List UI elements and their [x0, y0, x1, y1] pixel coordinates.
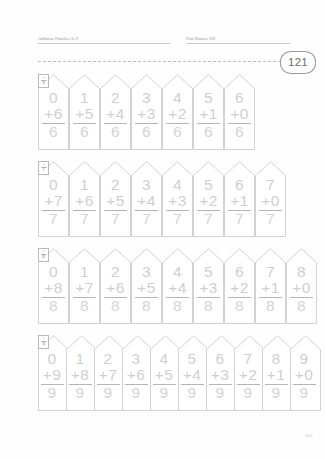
house-row: 0+771+672+573+474+375+276+177+07 [38, 161, 318, 237]
sum-value: 8 [49, 298, 58, 314]
sum-value: 8 [80, 298, 89, 314]
house-problem: 5+49 [178, 335, 206, 401]
top-addend: 7 [266, 264, 275, 280]
fact-house: 5+27 [193, 161, 224, 237]
sum-value: 7 [111, 211, 120, 227]
top-addend: 0 [49, 90, 58, 106]
top-addend: 9 [300, 351, 309, 367]
house-problem: 8+19 [262, 335, 290, 401]
top-addend: 6 [235, 177, 244, 193]
bottom-addend: +5 [75, 106, 93, 122]
bottom-addend: +0 [261, 193, 279, 209]
house-problem: 6+06 [224, 74, 255, 140]
fact-house: 2+57 [100, 161, 131, 237]
bottom-addend: +1 [230, 193, 248, 209]
top-addend: 3 [132, 351, 141, 367]
fact-house: 5+49 [178, 335, 206, 411]
fact-house: 6+28 [224, 248, 255, 324]
house-problem: 6+39 [206, 335, 234, 401]
fact-house-block: +70+771+672+573+474+375+276+177+07 [38, 161, 318, 237]
top-addend: 3 [142, 90, 151, 106]
top-addend: 4 [173, 264, 182, 280]
sum-value: 6 [111, 124, 120, 140]
bottom-addend: +3 [199, 280, 217, 296]
house-problem: 7+18 [255, 248, 286, 314]
bottom-addend: +4 [183, 367, 201, 383]
fact-house: 2+46 [100, 74, 131, 150]
bottom-addend: +7 [44, 193, 62, 209]
fact-house: 9+09 [290, 335, 318, 411]
house-problem: 2+57 [100, 161, 131, 227]
house-problem: 1+56 [69, 74, 100, 140]
house-problem: 8+08 [286, 248, 317, 314]
top-addend: 6 [235, 264, 244, 280]
page-number-label: 121 [288, 57, 308, 69]
tab-number: 7 [41, 167, 47, 173]
bottom-addend: +1 [199, 106, 217, 122]
fact-house: 7+07 [255, 161, 286, 237]
house-problem: 6+28 [224, 248, 255, 314]
bottom-addend: +3 [137, 106, 155, 122]
top-addend: 5 [204, 90, 213, 106]
house-problem: 5+16 [193, 74, 224, 140]
sum-value: 9 [132, 385, 141, 401]
sum-value: 8 [297, 298, 306, 314]
top-addend: 7 [266, 177, 275, 193]
top-addend: 4 [160, 351, 169, 367]
sum-value: 7 [49, 211, 58, 227]
sum-value: 8 [204, 298, 213, 314]
fact-house: 8+19 [262, 335, 290, 411]
house-problem: 3+47 [131, 161, 162, 227]
bottom-addend: +3 [211, 367, 229, 383]
fact-house: 7+18 [255, 248, 286, 324]
sum-value: 6 [235, 124, 244, 140]
top-addend: 2 [111, 264, 120, 280]
top-addend: 3 [142, 177, 151, 193]
house-problem: 7+29 [234, 335, 262, 401]
sum-value: 7 [173, 211, 182, 227]
top-addend: 7 [244, 351, 253, 367]
sum-value: 7 [204, 211, 213, 227]
house-problem: 1+67 [69, 161, 100, 227]
house-problem: 3+69 [122, 335, 150, 401]
bottom-addend: +2 [239, 367, 257, 383]
tab-number: 8 [41, 254, 47, 260]
fact-house-block: +60+661+562+463+364+265+166+06 [38, 74, 318, 150]
worksheet-page: Addition Families 6–9 Fact Houses #02 12… [0, 0, 325, 459]
fact-house: 3+69 [122, 335, 150, 411]
top-addend: 2 [111, 177, 120, 193]
tab-number: 6 [41, 80, 47, 86]
top-addend: 6 [216, 351, 225, 367]
bottom-addend: +0 [230, 106, 248, 122]
tab-number: 9 [41, 341, 47, 347]
sum-value: 8 [173, 298, 182, 314]
page-number-badge: 121 [280, 51, 316, 74]
sum-value: 6 [173, 124, 182, 140]
sum-value: 6 [204, 124, 213, 140]
bottom-addend: +3 [168, 193, 186, 209]
sum-value: 8 [142, 298, 151, 314]
fact-house-blocks: +60+661+562+463+364+265+166+06+70+771+67… [38, 74, 318, 422]
sum-value: 9 [244, 385, 253, 401]
fact-family-tab: +7 [38, 161, 49, 175]
sum-value: 8 [111, 298, 120, 314]
bottom-addend: +6 [127, 367, 145, 383]
house-problem: 3+36 [131, 74, 162, 140]
house-problem: 2+79 [94, 335, 122, 401]
sum-value: 6 [49, 124, 58, 140]
top-addend: 5 [204, 264, 213, 280]
fact-family-tab: +9 [38, 335, 49, 349]
fact-family-tab: +8 [38, 248, 49, 262]
house-problem: 2+46 [100, 74, 131, 140]
fact-house: 3+36 [131, 74, 162, 150]
sum-value: 8 [235, 298, 244, 314]
fact-house: 5+38 [193, 248, 224, 324]
sum-value: 8 [266, 298, 275, 314]
sum-value: 9 [160, 385, 169, 401]
house-problem: 4+48 [162, 248, 193, 314]
fact-house: 5+16 [193, 74, 224, 150]
sum-value: 9 [188, 385, 197, 401]
fact-house: 1+89 [66, 335, 94, 411]
house-problem: 1+78 [69, 248, 100, 314]
top-addend: 0 [48, 351, 57, 367]
